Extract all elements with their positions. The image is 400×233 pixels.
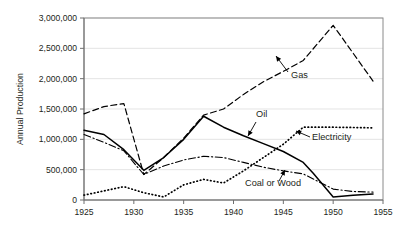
- series-line-oil: [84, 116, 373, 197]
- series-line-gas: [84, 25, 373, 174]
- y-tick-label: 500,000: [46, 165, 77, 175]
- gridlines-group: [84, 18, 383, 170]
- x-tick-label: 1935: [174, 207, 193, 217]
- x-tick-label: 1930: [124, 207, 143, 217]
- y-tick-label: 1,000,000: [39, 134, 77, 144]
- y-axis-title: Annual Production: [15, 73, 25, 145]
- annotation-arrowhead-gas: [276, 56, 281, 62]
- x-tick-label: 1945: [274, 207, 293, 217]
- x-tick-label: 1950: [324, 207, 343, 217]
- data-series-group: [84, 25, 373, 197]
- series-annotations-group: GasOilElectricityCoal or Wood: [245, 56, 352, 188]
- chart-container: 0500,0001,000,0001,500,0002,000,0002,500…: [0, 0, 400, 233]
- x-tick-label: 1925: [74, 207, 93, 217]
- y-tick-label: 0: [72, 195, 77, 205]
- x-axis-ticks: 1925193019351940194519501955: [74, 200, 392, 217]
- y-tick-label: 2,500,000: [39, 43, 77, 53]
- series-label-gas: Gas: [291, 70, 308, 80]
- y-tick-label: 3,000,000: [39, 13, 77, 23]
- y-axis-ticks: 0500,0001,000,0001,500,0002,000,0002,500…: [39, 13, 84, 205]
- series-label-oil: Oil: [256, 109, 267, 119]
- series-label-electricity: Electricity: [312, 132, 352, 142]
- x-tick-label: 1955: [373, 207, 392, 217]
- series-line-coal-or-wood: [84, 134, 373, 192]
- x-tick-label: 1940: [224, 207, 243, 217]
- y-tick-label: 2,000,000: [39, 74, 77, 84]
- annual-production-line-chart: 0500,0001,000,0001,500,0002,000,0002,500…: [0, 0, 400, 233]
- y-tick-label: 1,500,000: [39, 104, 77, 114]
- series-label-coal-or-wood: Coal or Wood: [245, 178, 301, 188]
